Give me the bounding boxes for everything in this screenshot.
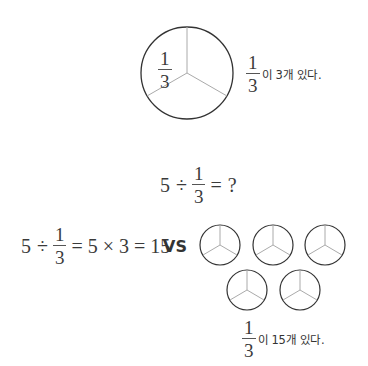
denominator: 3 — [244, 339, 254, 360]
circle-fraction-label: 1 3 — [156, 49, 174, 91]
caption-text: 이 3개 있다. — [262, 66, 322, 82]
numerator: 1 — [53, 225, 67, 245]
solution-equation: 5 ÷ 1 3 = 5 × 3 = 15 — [18, 225, 173, 267]
divide-operator: ÷ — [37, 235, 48, 258]
top-caption: 1 3 이 3개 있다. — [244, 53, 321, 95]
small-circle-4 — [227, 270, 267, 310]
denominator: 3 — [248, 74, 258, 95]
bottom-caption: 1 3 이 15개 있다. — [240, 318, 324, 360]
numerator: 1 — [246, 53, 260, 73]
denominator: 3 — [194, 185, 204, 206]
numerator: 1 — [158, 49, 172, 69]
small-circle-2 — [253, 225, 293, 265]
dividend: 5 — [21, 235, 31, 258]
divide-operator: ÷ — [176, 174, 187, 197]
small-circle-1 — [200, 225, 240, 265]
numerator: 1 — [242, 318, 256, 338]
large-circle-thirds — [141, 27, 233, 119]
equals-sign: = — [210, 174, 221, 197]
denominator: 3 — [55, 246, 65, 267]
vs-label: VS — [163, 237, 187, 256]
numerator: 1 — [192, 164, 206, 184]
small-circle-3 — [305, 225, 345, 265]
result-unknown: ? — [228, 174, 237, 197]
denominator: 3 — [160, 70, 170, 91]
caption-text: 이 15개 있다. — [258, 331, 325, 347]
small-circle-5 — [280, 270, 320, 310]
dividend: 5 — [160, 174, 170, 197]
question-equation: 5 ÷ 1 3 = ? — [157, 164, 240, 206]
equation-rest: = 5 × 3 = 15 — [71, 235, 170, 258]
